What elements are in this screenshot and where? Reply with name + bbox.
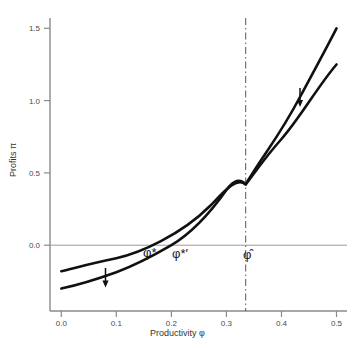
x-axis-title: Productivity φ	[0, 328, 355, 338]
x-tick-label-5: 0.5	[331, 319, 342, 328]
upper-profit-curve	[61, 28, 336, 271]
x-tick-marks	[61, 311, 336, 317]
x-tick-label-4: 0.4	[276, 319, 287, 328]
y-tick-marks	[44, 28, 50, 245]
x-tick-label-2: 0.2	[166, 319, 177, 328]
x-tick-label-3: 0.3	[221, 319, 232, 328]
phi-star-label: φ*	[143, 246, 157, 259]
y-axis-title: Profits π	[8, 125, 18, 195]
x-tick-label-1: 0.1	[111, 319, 122, 328]
x-tick-label-0: 0.0	[56, 319, 67, 328]
y-tick-label-3: 1.5	[10, 24, 40, 33]
plot-canvas	[0, 0, 355, 348]
phi-star-prime-label: φ*′	[172, 247, 188, 260]
phi-hat-label: φ̂	[243, 248, 251, 261]
chart-figure: 0.0 0.5 1.0 1.5 0.0 0.1 0.2 0.3 0.4 0.5 …	[0, 0, 355, 348]
lower-profit-curve	[61, 65, 336, 289]
y-tick-label-0: 0.0	[10, 241, 40, 250]
y-tick-label-2: 1.0	[10, 96, 40, 105]
